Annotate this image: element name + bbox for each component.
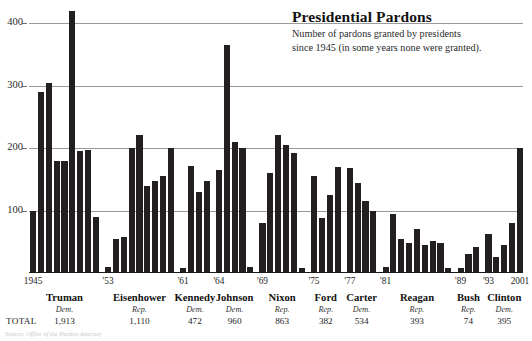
x-label-1975-start: '75: [309, 276, 320, 286]
bar: [232, 142, 238, 273]
president-name-ford: Ford: [315, 292, 337, 303]
x-label-1945-start: 1945: [24, 276, 43, 286]
bar: [517, 148, 523, 273]
y-tick-label-400: 400: [0, 16, 23, 27]
bar: [129, 148, 135, 273]
x-label-1993-start: '93: [483, 276, 494, 286]
president-party-ford: Rep.: [318, 305, 333, 314]
bar: [85, 150, 91, 274]
president-name-reagan: Reagan: [400, 292, 434, 303]
president-party-johnson: Dem.: [226, 305, 244, 314]
page-title: Presidential Pardons: [292, 8, 527, 25]
president-party-truman: Dem.: [56, 305, 74, 314]
bar: [362, 201, 368, 273]
bar: [46, 83, 52, 273]
bar: [473, 247, 479, 273]
president-party-row: Dem.Rep.Dem.Dem.Rep.Rep.Dem.Rep.Rep.Dem.: [0, 305, 532, 316]
president-party-kennedy: Dem.: [186, 305, 204, 314]
bar: [224, 45, 230, 273]
y-tick-label-100: 100: [0, 204, 23, 215]
presidential-pardons-chart: 100200300400 Presidential Pardons Number…: [0, 0, 532, 341]
bar: [406, 243, 412, 273]
bar: [239, 148, 245, 273]
bar: [283, 145, 289, 273]
president-party-eisenhower: Rep.: [132, 305, 147, 314]
bar: [398, 239, 404, 273]
president-total-clinton: 395: [497, 316, 511, 326]
president-total-truman: 1,913: [54, 316, 75, 326]
bar: [422, 245, 428, 273]
bar: [54, 161, 60, 273]
x-label-1964-start: '64: [213, 276, 224, 286]
x-label-1961-start: '61: [178, 276, 189, 286]
president-party-nixon: Rep.: [275, 305, 290, 314]
bar: [77, 151, 83, 273]
source-note: Source: Office of the Pardon Attorney: [5, 330, 102, 337]
bar: [136, 135, 142, 273]
bar: [144, 186, 150, 273]
x-label-1969-start: '69: [257, 276, 268, 286]
bar: [113, 239, 119, 273]
president-total-eisenhower: 1,110: [129, 316, 149, 326]
title-block: Presidential Pardons Number of pardons g…: [292, 8, 527, 54]
bar: [204, 181, 210, 273]
chart-subtitle-line1: Number of pardons granted by presidents: [292, 27, 527, 40]
bar: [465, 254, 471, 273]
bar: [188, 166, 194, 273]
bar: [430, 241, 436, 273]
x-label-1977-start: '77: [344, 276, 355, 286]
bar: [152, 181, 158, 273]
x-label-2001-end: 2001: [511, 276, 530, 286]
president-name-clinton: Clinton: [487, 292, 521, 303]
x-label-1981-start: '81: [380, 276, 391, 286]
president-total-bush: 74: [464, 316, 473, 326]
bar: [355, 183, 361, 273]
bar: [38, 92, 44, 273]
bar: [493, 257, 499, 273]
bar: [347, 168, 353, 273]
president-party-bush: Rep.: [461, 305, 476, 314]
bar: [61, 161, 67, 273]
president-name-carter: Carter: [346, 292, 377, 303]
bar: [121, 237, 127, 273]
president-total-reagan: 393: [410, 316, 424, 326]
president-party-carter: Dem.: [353, 305, 371, 314]
x-label-1953-start: '53: [103, 276, 114, 286]
president-name-johnson: Johnson: [216, 292, 254, 303]
y-tick-label-300: 300: [0, 79, 23, 90]
bar: [437, 243, 443, 273]
bar: [319, 218, 325, 273]
bar: [291, 153, 297, 273]
bar: [196, 192, 202, 273]
bar: [30, 211, 36, 273]
bar: [509, 223, 515, 273]
president-name-bush: Bush: [457, 292, 480, 303]
bar: [390, 214, 396, 273]
x-axis-labels: 1945'53'61'64'69'75'77'81'89'932001: [0, 276, 532, 290]
bar: [216, 170, 222, 273]
bar: [168, 148, 174, 273]
president-names-row: TrumanEisenhowerKennedyJohnsonNixonFordC…: [0, 292, 532, 304]
bar: [485, 234, 491, 273]
total-row-label: TOTAL: [6, 316, 37, 326]
x-label-1989-start: '89: [455, 276, 466, 286]
bar: [160, 176, 166, 273]
president-total-kennedy: 472: [188, 316, 202, 326]
bar: [93, 217, 99, 273]
bar: [267, 173, 273, 273]
y-tick-label-200: 200: [0, 141, 23, 152]
president-party-clinton: Dem.: [495, 305, 513, 314]
president-total-ford: 382: [319, 316, 333, 326]
president-name-eisenhower: Eisenhower: [113, 292, 166, 303]
bar: [501, 245, 507, 273]
president-total-johnson: 960: [228, 316, 242, 326]
president-party-reagan: Rep.: [410, 305, 425, 314]
chart-subtitle-line2: since 1945 (in some years none were gran…: [292, 41, 527, 54]
president-name-nixon: Nixon: [269, 292, 296, 303]
bar: [414, 229, 420, 273]
bar: [370, 211, 376, 273]
president-total-carter: 534: [355, 316, 369, 326]
president-totals-row: TOTAL 1,9131,11047296086338253439374395: [0, 316, 532, 328]
bar: [311, 176, 317, 273]
bar: [335, 167, 341, 273]
